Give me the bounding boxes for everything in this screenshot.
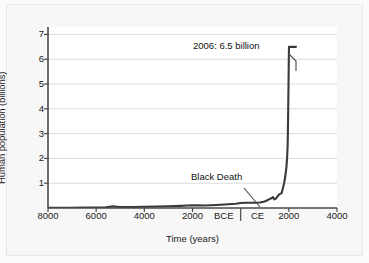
y-axis-title: Human population (billions): [0, 72, 7, 184]
x-tick-label: CE: [251, 211, 264, 221]
x-tick-label: 6000: [86, 211, 107, 221]
x-tick-label: BCE: [214, 211, 234, 221]
y-tick-label: 6: [22, 54, 44, 64]
population-growth-figure: Human population (billions) 1234567 8000…: [0, 0, 369, 263]
y-tick-label: 1: [22, 178, 44, 188]
x-axis-title: Time (years): [48, 233, 337, 244]
y-axis-tick-labels: 1234567: [16, 0, 44, 208]
x-axis-tick-labels: 8000600040002000BCECE20004000: [0, 211, 369, 227]
y-tick-label: 3: [22, 129, 44, 139]
y-axis-title-container: Human population (billions): [0, 14, 6, 190]
y-tick-label: 4: [22, 104, 44, 114]
y-tick-label: 2: [22, 153, 44, 163]
x-tick-label: 2000: [278, 211, 299, 221]
y-tick-label: 7: [22, 29, 44, 39]
x-tick-label: 4000: [326, 211, 347, 221]
y-tick-label: 5: [22, 79, 44, 89]
annotation-peak-population: 2006: 6.5 billion: [193, 41, 260, 51]
gridlines: [48, 34, 337, 183]
x-tick-label: 2000: [182, 211, 203, 221]
population-line-series: [48, 47, 296, 208]
x-tick-label: 8000: [37, 211, 58, 221]
x-tick-label: 4000: [134, 211, 155, 221]
annotation-black-death: Black Death: [191, 172, 242, 182]
